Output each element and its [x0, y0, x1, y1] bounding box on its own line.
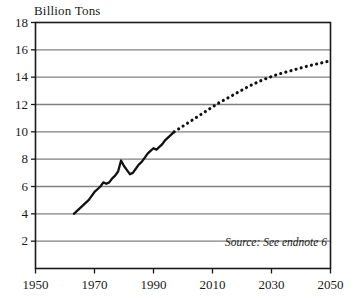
- x-axis-tick-label: 2050: [308, 278, 354, 291]
- x-axis-tick-label: 2030: [249, 278, 295, 291]
- chart-container: Billion Tons 18161412108642 195019701990…: [0, 0, 355, 301]
- data-line-projection: [174, 61, 330, 132]
- data-line-historical: [74, 132, 174, 214]
- chart-plot-area: [0, 0, 355, 301]
- y-axis-tick-label: 6: [2, 180, 28, 193]
- gridlines: [36, 50, 331, 241]
- y-axis-tick-label: 18: [2, 16, 28, 29]
- y-axis-tick-label: 10: [2, 125, 28, 138]
- x-axis-tick-label: 1990: [131, 278, 177, 291]
- y-axis-tick-label: 12: [2, 98, 28, 111]
- x-axis-tick-label: 1950: [13, 278, 59, 291]
- y-axis-tick-label: 8: [2, 152, 28, 165]
- y-axis-tick-label: 16: [2, 43, 28, 56]
- plot-frame: [36, 23, 331, 269]
- x-axis-tick-label: 1970: [72, 278, 118, 291]
- x-axis-tick-label: 2010: [190, 278, 236, 291]
- y-axis-tick-label: 4: [2, 207, 28, 220]
- y-axis-tick-label: 2: [2, 234, 28, 247]
- y-axis-tick-label: 14: [2, 70, 28, 83]
- source-note: Source: See endnote 6: [225, 236, 327, 248]
